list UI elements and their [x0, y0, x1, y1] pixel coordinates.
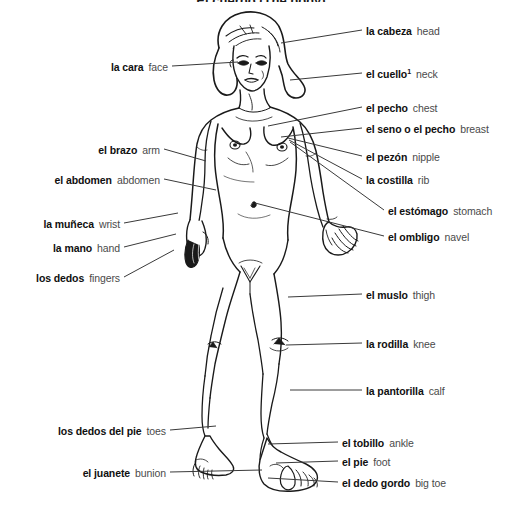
body-part-label: la cabezahead	[366, 25, 440, 37]
english-gloss: neck	[416, 68, 438, 80]
leader-line	[164, 179, 216, 190]
spanish-term: el brazo	[98, 144, 137, 156]
body-part-label: la caraface	[111, 61, 168, 73]
english-gloss: navel	[445, 231, 470, 243]
spanish-term: el tobillo	[342, 437, 384, 449]
spanish-term: el muslo	[366, 289, 408, 301]
leader-line	[268, 107, 362, 126]
spanish-term: la cara	[111, 61, 144, 73]
spanish-term: la mano	[53, 242, 92, 254]
body-part-label: la rodillaknee	[366, 338, 436, 350]
spanish-term: el ombligo	[388, 231, 440, 243]
english-gloss: nipple	[412, 151, 439, 163]
body-part-label: el pezónnipple	[366, 151, 440, 163]
body-part-label: el brazoarm	[98, 144, 160, 156]
body-part-label: la manohand	[53, 242, 120, 254]
spanish-term: el pie	[342, 456, 368, 468]
spanish-term: el seno o el pecho	[366, 123, 455, 135]
spanish-term: la pantorilla	[366, 385, 424, 397]
leader-line	[172, 62, 238, 66]
spanish-term: el juanete	[83, 467, 130, 479]
footnote-marker: 1	[407, 68, 411, 75]
body-part-label: el dedo gordobig toe	[342, 477, 446, 489]
leader-line	[124, 234, 176, 247]
leader-line	[289, 140, 362, 179]
leader-line	[281, 128, 362, 137]
english-gloss: head	[417, 25, 440, 37]
body-part-label: el muslothigh	[366, 289, 435, 301]
leader-line	[170, 426, 216, 430]
body-part-label: el seno o el pechobreast	[366, 123, 489, 135]
leader-line	[288, 138, 362, 156]
spanish-term: el abdomen	[55, 174, 112, 186]
english-gloss: toes	[147, 425, 166, 437]
english-gloss: wrist	[99, 218, 120, 230]
english-gloss: knee	[413, 338, 435, 350]
english-gloss: calf	[429, 385, 445, 397]
english-gloss: breast	[460, 123, 489, 135]
body-part-label: el piefoot	[342, 456, 390, 468]
leader-line	[164, 149, 206, 161]
leader-line	[281, 30, 362, 43]
leader-line	[124, 250, 174, 277]
body-part-label: el cuello1neck	[366, 68, 438, 80]
leader-line	[276, 461, 338, 463]
body-part-label: la muñecawrist	[43, 218, 120, 230]
leader-line	[255, 203, 384, 236]
english-gloss: chest	[413, 102, 438, 114]
body-part-label: los dedos del pietoes	[58, 425, 166, 437]
leader-line	[286, 343, 362, 345]
body-part-label: el ombligonavel	[388, 231, 469, 243]
english-gloss: fingers	[89, 272, 120, 284]
spanish-term: el dedo gordo	[342, 477, 410, 489]
spanish-term: el pecho	[366, 102, 408, 114]
leader-line	[124, 213, 178, 223]
spanish-term: los dedos	[36, 272, 84, 284]
body-part-label: el abdomenabdomen	[55, 174, 160, 186]
english-gloss: rib	[418, 174, 429, 186]
leader-line	[268, 478, 338, 482]
spanish-term: el cuello1	[366, 68, 411, 80]
spanish-term: la costilla	[366, 174, 413, 186]
body-part-label: el pechochest	[366, 102, 437, 114]
english-gloss: big toe	[415, 477, 446, 489]
spanish-term: la muñeca	[43, 218, 93, 230]
english-gloss: hand	[97, 242, 120, 254]
body-part-label: la pantorillacalf	[366, 385, 445, 397]
spanish-term: los dedos del pie	[58, 425, 142, 437]
english-gloss: stomach	[453, 205, 492, 217]
body-part-label: el tobilloankle	[342, 437, 414, 449]
leader-line	[268, 442, 338, 444]
english-gloss: bunion	[135, 467, 166, 479]
english-gloss: arm	[142, 144, 160, 156]
body-part-label: los dedosfingers	[36, 272, 120, 284]
english-gloss: face	[149, 61, 168, 73]
spanish-term: el pezón	[366, 151, 407, 163]
leader-line	[288, 294, 362, 297]
body-vocabulary-diagram: El cuerpo (The body)	[0, 0, 522, 506]
english-gloss: foot	[373, 456, 390, 468]
spanish-term: el estómago	[388, 205, 448, 217]
leader-line	[170, 470, 262, 472]
spanish-term: la cabeza	[366, 25, 412, 37]
body-part-label: la costillarib	[366, 174, 429, 186]
english-gloss: thigh	[413, 289, 435, 301]
leader-line	[290, 73, 362, 80]
english-gloss: ankle	[389, 437, 414, 449]
english-gloss: abdomen	[117, 174, 160, 186]
spanish-term: la rodilla	[366, 338, 408, 350]
body-part-label: el juanetebunion	[83, 467, 166, 479]
body-part-label: el estómagostomach	[388, 205, 492, 217]
